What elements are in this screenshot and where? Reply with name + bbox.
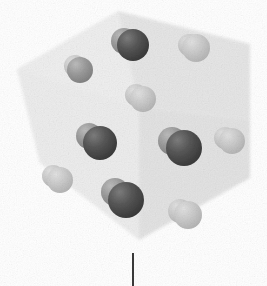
atom-pair-right-edge-sphere-front xyxy=(219,128,245,154)
atom-pair-upper-right-sphere-front xyxy=(182,34,210,62)
atom-pair-lower-right-sphere-front xyxy=(174,201,202,229)
atom-pair-center-upper-sphere-front xyxy=(130,86,156,112)
atom-pair-mid-left-sphere-front xyxy=(83,126,117,160)
atom-pair-lower-left-sphere-front xyxy=(47,167,73,193)
unit-cell-figure xyxy=(0,0,267,286)
figure-canvas xyxy=(0,0,267,286)
atom-pair-top-center-sphere-front xyxy=(117,29,149,61)
atom-pair-mid-right-sphere-front xyxy=(166,130,202,166)
atom-pair-lower-center-sphere-front xyxy=(108,182,144,218)
atom-pair-upper-left-sphere-front xyxy=(67,57,93,83)
